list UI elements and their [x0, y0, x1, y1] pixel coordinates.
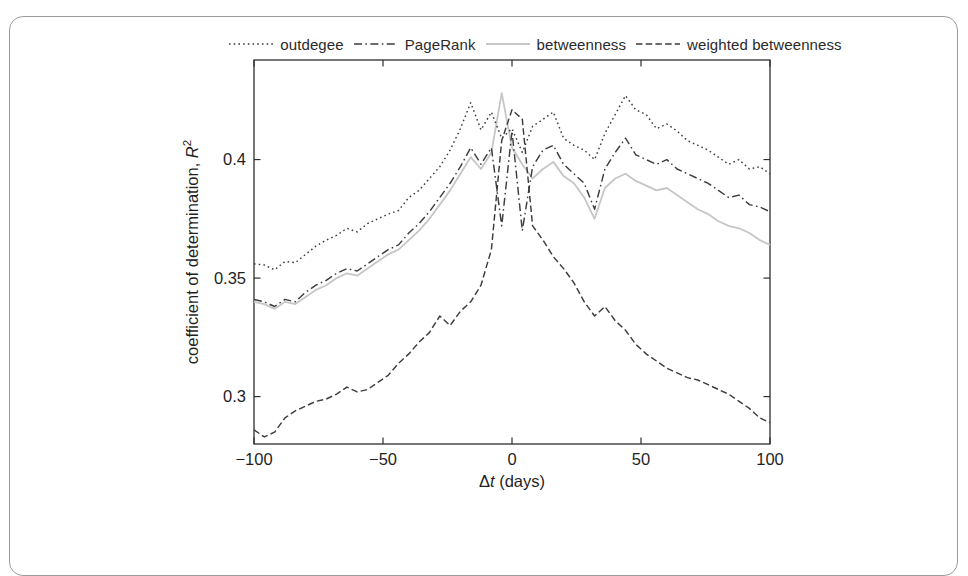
x-tick-label: 100: [756, 450, 784, 468]
y-axis-label: coefficient of determination, R2: [181, 140, 201, 364]
y-tick-label: 0.35: [214, 269, 246, 287]
x-tick-label: 0: [507, 450, 516, 468]
series-line-outdegee: [254, 96, 770, 270]
y-tick-label: 0.3: [223, 387, 246, 405]
x-tick-label: −100: [235, 450, 272, 468]
plot-box: [254, 60, 770, 444]
x-tick-label: 50: [632, 450, 650, 468]
y-tick-label: 0.4: [223, 150, 246, 168]
axes: −100−500501000.30.350.4: [214, 60, 784, 468]
series-line-PageRank: [254, 131, 770, 306]
data-series-lines: [254, 93, 770, 437]
x-tick-label: −50: [369, 450, 397, 468]
series-line-weighted-betweenness: [254, 110, 770, 437]
x-axis-label: Δt (days): [479, 472, 545, 490]
